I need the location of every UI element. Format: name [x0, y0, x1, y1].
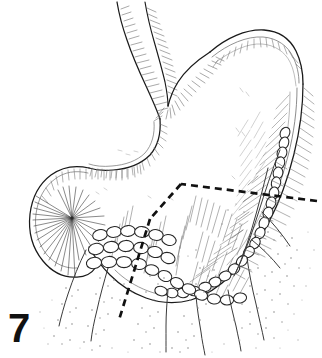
- figure-number-label: 7: [8, 306, 30, 350]
- fan-convergence-point: [70, 216, 73, 219]
- stomach-anatomy-drawing: .ink { fill:none; stroke:#1a1a1a; stroke…: [0, 0, 322, 358]
- figure-illustration: .ink { fill:none; stroke:#1a1a1a; stroke…: [0, 0, 322, 358]
